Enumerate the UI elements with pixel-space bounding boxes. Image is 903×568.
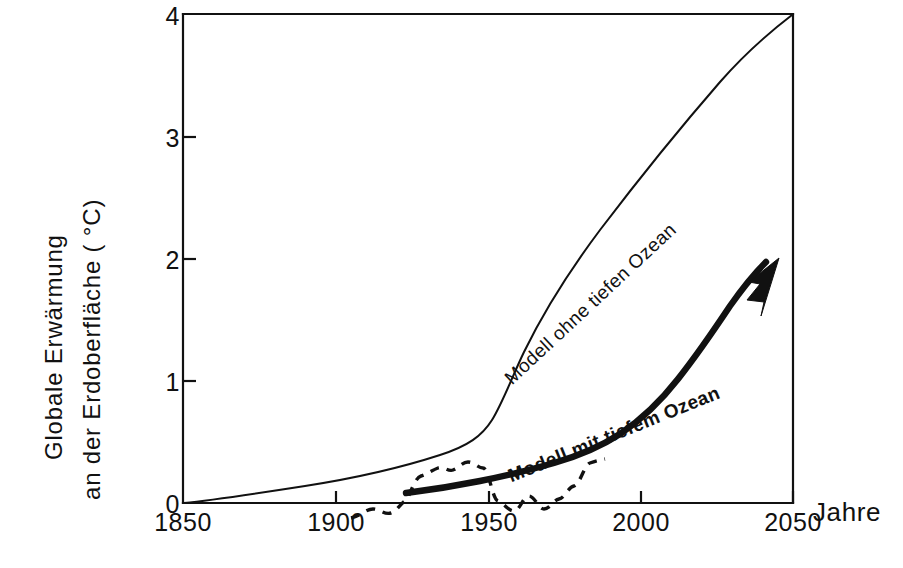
y-tick-label-1: 1 [146, 368, 180, 397]
series-model-without-deep-ocean [184, 15, 792, 503]
y-tick-label-4: 4 [146, 2, 180, 31]
x-tick-label-2000: 2000 [586, 508, 696, 537]
x-tick-label-1950: 1950 [434, 508, 544, 537]
x-tick-label-1850: 1850 [128, 508, 238, 537]
y-tick-label-2: 2 [146, 246, 180, 275]
x-tick-label-1900: 1900 [281, 508, 391, 537]
y-tick-label-3: 3 [146, 124, 180, 153]
plot-area [0, 0, 903, 568]
chart-figure: 4 3 2 1 0 1850 1900 1950 2000 2050 Globa… [0, 0, 903, 568]
x-axis-title: Jahre [813, 497, 881, 528]
